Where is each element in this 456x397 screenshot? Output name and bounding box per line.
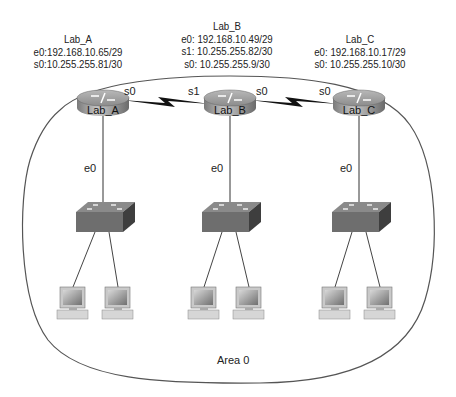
pc-icon[interactable] (364, 287, 395, 319)
port-label-b-s0: s0 (256, 85, 268, 97)
router-icon[interactable]: Lab_A (77, 90, 129, 116)
serial-link-a-b (122, 97, 210, 107)
serial-link-b-c (250, 97, 338, 107)
pc-icon[interactable] (319, 287, 350, 319)
router-label: Lab_A (87, 104, 119, 116)
port-label-c-e0: e0 (340, 162, 352, 174)
switch-icon[interactable] (332, 202, 391, 232)
router-label: Lab_B (214, 104, 246, 116)
pc-links (73, 232, 380, 287)
switch-icon[interactable] (202, 202, 261, 232)
router-icon[interactable]: Lab_C (333, 90, 385, 116)
pc-icon[interactable] (233, 287, 264, 319)
port-label-a-e0: e0 (84, 162, 96, 174)
port-label-c-s0: s0 (319, 85, 331, 97)
area-label: Area 0 (217, 354, 249, 366)
pc-icon[interactable] (102, 287, 133, 319)
pc-icon[interactable] (188, 287, 219, 319)
router-icon[interactable]: Lab_B (204, 90, 256, 116)
port-label-b-e0: e0 (211, 162, 223, 174)
port-label-a-s0: s0 (124, 85, 136, 97)
network-diagram: Lab_A Lab_B Lab_C s0 s1 s0 s0 e0 e0 e0 (0, 0, 456, 397)
port-label-b-s1: s1 (188, 85, 200, 97)
router-label: Lab_C (343, 104, 375, 116)
pc-icon[interactable] (57, 287, 88, 319)
switch-icon[interactable] (76, 202, 135, 232)
